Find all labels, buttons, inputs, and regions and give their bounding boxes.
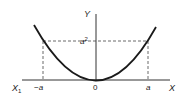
origin-label: 0 [93,83,98,92]
pos-a-label: a [146,83,151,92]
x-axis-label: X [168,83,176,93]
parabola-curve [34,25,156,81]
neg-a-label: −a [34,83,44,92]
y-axis-label: Y [84,9,91,19]
parabola-diagram: Y a2 X1 −a 0 a X [0,0,180,100]
x1-axis-label: X1 [11,83,22,94]
a-squared-label: a2 [80,36,88,46]
